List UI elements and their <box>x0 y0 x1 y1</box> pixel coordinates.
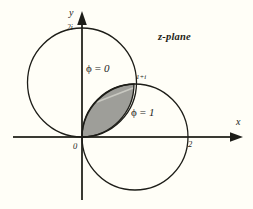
phi-zero-equals: = <box>95 62 101 74</box>
figure-caption: z-plane <box>158 32 191 43</box>
phi-one-equals: = <box>140 106 146 118</box>
x-tick-0: 0 <box>73 142 77 151</box>
phi-one-symbol: ϕ <box>131 106 137 118</box>
phi-zero-symbol: ϕ <box>86 62 92 74</box>
phi-zero-label: ϕ=0 <box>86 63 110 74</box>
phi-one-label: ϕ=1 <box>131 107 155 118</box>
z-plane-figure: x y 2i 0 2 1+i ϕ=0 ϕ=1 z-plane <box>0 0 253 209</box>
y-tick-2i: 2i <box>67 24 73 32</box>
y-axis-arrowhead <box>77 11 87 25</box>
figure-canvas <box>0 0 253 209</box>
y-axis-label: y <box>69 8 73 18</box>
phi-one-value: 1 <box>149 106 155 118</box>
intersection-point-label: 1+i <box>136 74 146 81</box>
x-axis-label: x <box>236 117 240 127</box>
phi-zero-value: 0 <box>104 62 110 74</box>
x-tick-2: 2 <box>188 140 192 149</box>
x-axis-arrowhead <box>230 132 243 142</box>
